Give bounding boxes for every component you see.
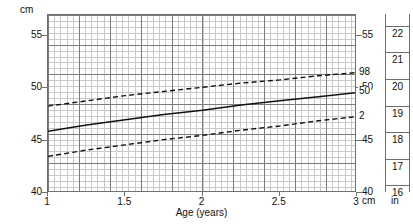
inch-gridline-18 bbox=[386, 132, 409, 133]
x-tick-mark-2.5 bbox=[279, 192, 280, 196]
y-tick-left-55: 55 bbox=[20, 30, 42, 40]
y-tick-mark-right-45 bbox=[356, 140, 362, 141]
y-tick-left-50: 50 bbox=[20, 82, 42, 92]
y-tick-right-45: 45 bbox=[362, 135, 384, 145]
y-tick-mark-left-45 bbox=[42, 140, 47, 141]
x-tick-2: 2 bbox=[187, 197, 217, 207]
right-axis-cm-unit-label: cm bbox=[362, 196, 375, 206]
y-tick-mark-left-50 bbox=[42, 87, 47, 88]
inch-gridline-21 bbox=[386, 52, 409, 53]
curve-label-50: 50 bbox=[358, 86, 371, 96]
x-tick-mark-1.5 bbox=[124, 192, 125, 196]
x-tick-mark-2 bbox=[202, 192, 203, 196]
inch-tick-21: 21 bbox=[386, 55, 409, 65]
left-axis-unit-label: cm bbox=[20, 5, 33, 15]
curve-98th-percentile bbox=[48, 73, 356, 107]
curve-2nd-percentile bbox=[48, 117, 356, 157]
x-tick-1.5: 1.5 bbox=[109, 197, 139, 207]
y-tick-right-55: 55 bbox=[362, 30, 384, 40]
percentile-curves bbox=[48, 15, 356, 192]
growth-chart: cm 22212019181716 55504540 55504540 11.5… bbox=[0, 0, 413, 224]
x-tick-mark-1 bbox=[47, 192, 48, 196]
curve-label-98: 98 bbox=[358, 67, 371, 77]
inch-tick-20: 20 bbox=[386, 82, 409, 92]
inch-gridline-22 bbox=[386, 26, 409, 27]
inch-tick-22: 22 bbox=[386, 29, 409, 39]
plot-area bbox=[47, 14, 356, 192]
curve-50th-percentile bbox=[48, 92, 356, 131]
inch-tick-19: 19 bbox=[386, 109, 409, 119]
y-tick-left-40: 40 bbox=[20, 187, 42, 197]
inch-scale-column: 22212019181716 bbox=[385, 14, 410, 192]
y-tick-mark-right-55 bbox=[356, 35, 362, 36]
inch-gridline-17 bbox=[386, 159, 409, 160]
y-tick-mark-left-55 bbox=[42, 35, 47, 36]
right-axis-in-unit-label: in bbox=[391, 196, 399, 206]
inch-gridline-19 bbox=[386, 106, 409, 107]
y-tick-left-45: 45 bbox=[20, 135, 42, 145]
x-tick-mark-3 bbox=[356, 192, 357, 196]
x-tick-1: 1 bbox=[32, 197, 62, 207]
curve-label-2: 2 bbox=[358, 111, 366, 121]
x-axis-title: Age (years) bbox=[47, 207, 356, 218]
x-tick-2.5: 2.5 bbox=[264, 197, 294, 207]
inch-gridline-20 bbox=[386, 79, 409, 80]
inch-gridline-16 bbox=[386, 185, 409, 186]
inch-tick-18: 18 bbox=[386, 135, 409, 145]
inch-tick-17: 17 bbox=[386, 162, 409, 172]
